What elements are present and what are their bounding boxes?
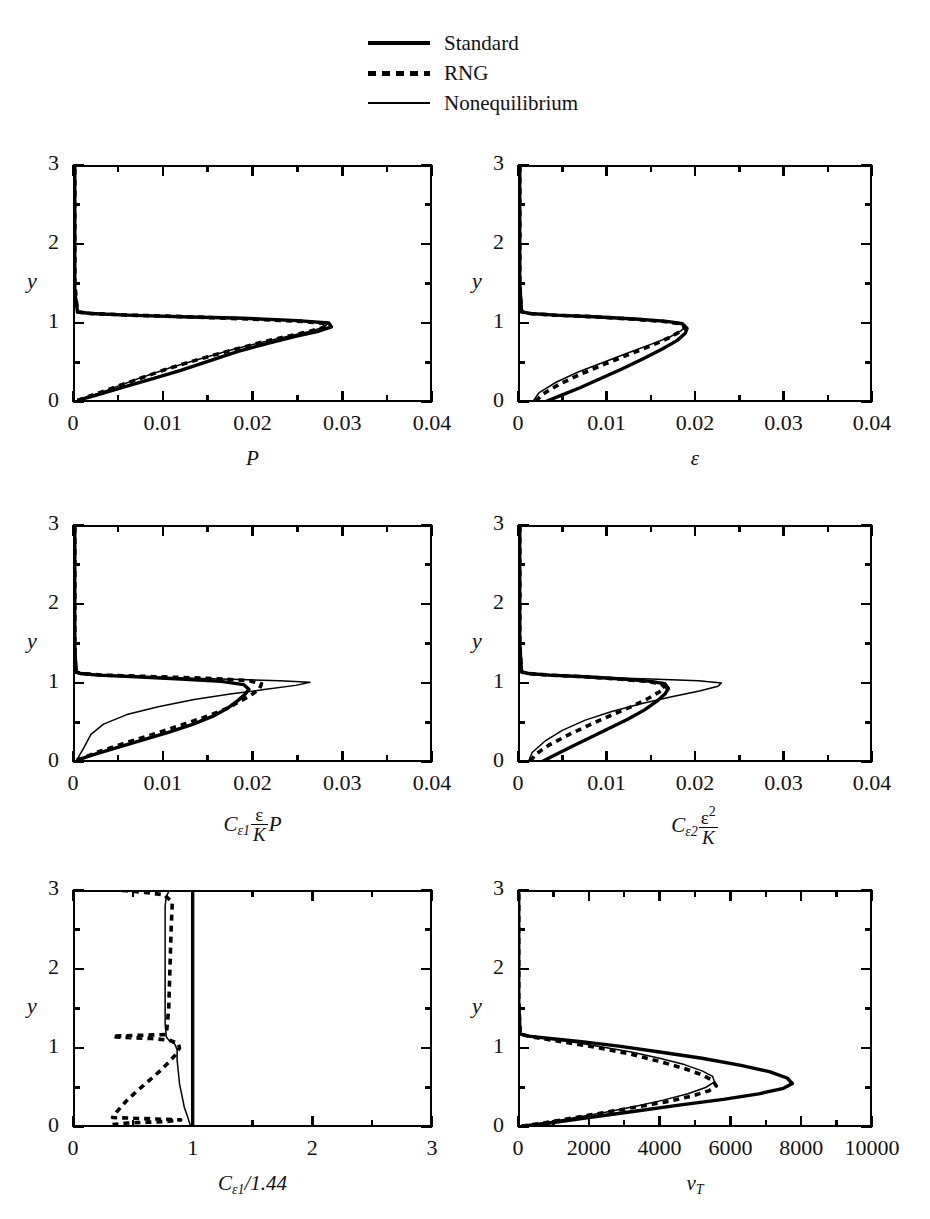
data-curves — [518, 890, 872, 1127]
y-tick-label: 1 — [17, 670, 59, 692]
series-rng — [519, 890, 717, 1126]
series-nonequilibrium — [520, 165, 685, 401]
legend: Standard RNG Nonequilibrium — [368, 28, 628, 118]
y-tick-label: 0 — [17, 749, 59, 771]
y-tick-label: 1 — [462, 1035, 504, 1057]
y-tick-label: 0 — [17, 1114, 59, 1136]
series-standard — [75, 525, 249, 760]
data-curves — [73, 525, 432, 762]
y-tick-label: 3 — [17, 877, 59, 899]
x-axis-label: P — [143, 446, 363, 470]
y-tick-label: 3 — [462, 512, 504, 534]
y-axis-label: y — [27, 270, 37, 292]
x-axis-label: Cε1εKP — [143, 806, 363, 846]
legend-item-nonequilibrium: Nonequilibrium — [368, 88, 628, 118]
series-rng — [520, 525, 665, 761]
y-axis-label: y — [27, 630, 37, 652]
y-tick-label: 3 — [17, 512, 59, 534]
series-standard — [520, 525, 669, 761]
series-nonequilibrium — [520, 525, 722, 761]
y-axis-label: y — [472, 630, 482, 652]
x-tick-label: 0.04 — [812, 412, 930, 434]
y-tick-label: 1 — [462, 670, 504, 692]
y-tick-label: 3 — [462, 877, 504, 899]
series-standard — [519, 890, 793, 1126]
y-tick-label: 0 — [17, 389, 59, 411]
data-curves — [73, 890, 432, 1127]
y-tick-label: 2 — [17, 231, 59, 253]
legend-label-standard: Standard — [444, 33, 519, 54]
y-tick-label: 2 — [462, 231, 504, 253]
legend-label-rng: RNG — [444, 63, 488, 84]
x-tick-label: 0.04 — [812, 772, 930, 794]
legend-item-standard: Standard — [368, 28, 628, 58]
y-tick-label: 1 — [17, 310, 59, 332]
line-solid-thick-icon — [368, 36, 430, 50]
y-tick-label: 2 — [17, 956, 59, 978]
x-axis-label: νT — [585, 1171, 805, 1202]
y-tick-label: 1 — [17, 1035, 59, 1057]
data-curves — [73, 165, 432, 402]
x-tick-label: 10000 — [812, 1137, 930, 1159]
x-axis-label: Cε1/1.44 — [143, 1171, 363, 1202]
series-rng — [112, 890, 180, 1125]
y-tick-label: 2 — [17, 591, 59, 613]
x-axis-label: ε — [585, 446, 805, 470]
series-standard — [75, 165, 332, 400]
data-curves — [518, 165, 872, 402]
y-axis-label: y — [472, 270, 482, 292]
y-tick-label: 2 — [462, 591, 504, 613]
y-tick-label: 3 — [17, 152, 59, 174]
y-tick-label: 1 — [462, 310, 504, 332]
y-tick-label: 0 — [462, 1114, 504, 1136]
x-axis-label: Cε2ε2K — [585, 806, 805, 848]
series-rng — [520, 165, 685, 401]
y-axis-label: y — [27, 995, 37, 1017]
line-dotted-icon — [368, 66, 430, 80]
legend-label-nonequilibrium: Nonequilibrium — [444, 93, 578, 114]
y-tick-label: 2 — [462, 956, 504, 978]
y-tick-label: 3 — [462, 152, 504, 174]
data-curves — [518, 525, 872, 762]
y-axis-label: y — [472, 995, 482, 1017]
y-tick-label: 0 — [462, 749, 504, 771]
x-tick-label: 2 — [252, 1137, 372, 1159]
legend-item-rng: RNG — [368, 58, 628, 88]
y-tick-label: 0 — [462, 389, 504, 411]
series-nonequilibrium — [519, 890, 715, 1126]
x-tick-label: 0 — [13, 1137, 133, 1159]
line-solid-thin-icon — [368, 96, 430, 110]
x-tick-label: 1 — [133, 1137, 253, 1159]
